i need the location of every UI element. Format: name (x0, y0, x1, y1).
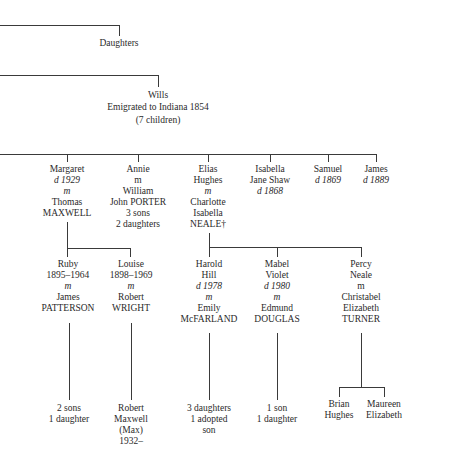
wills-name: Wills (107, 90, 209, 101)
death-date: d 1978 (181, 281, 238, 292)
person-name: Harold (181, 259, 238, 270)
person-name: Percy (341, 259, 380, 270)
line-percy-children-h (339, 387, 385, 388)
married-marker: m (110, 281, 153, 292)
line-neale-harold (209, 247, 210, 257)
married-marker: m (254, 292, 299, 303)
life-dates: 1895–1964 (42, 270, 95, 281)
children-adopted-son: son (187, 425, 231, 436)
node-elias: Elias Hughes m Charlotte Isabella NEALE† (190, 164, 226, 230)
person-name: Louise (110, 259, 153, 270)
spouse-first: Edmund (254, 303, 299, 314)
person-name: Brian (324, 399, 353, 410)
children-daughters: 2 daughters (110, 219, 166, 230)
spouse-middle: Elizabeth (341, 303, 380, 314)
node-louise: Louise 1898–1969 m Robert WRIGHT (110, 259, 153, 314)
person-name: Ruby (42, 259, 95, 270)
line-maureen (384, 387, 385, 397)
node-ruby-children: 2 sons 1 daughter (49, 403, 89, 425)
node-james: James d 1889 (363, 164, 389, 186)
line-neale-mabel (277, 247, 278, 257)
line-louise-down (131, 323, 132, 400)
line-ruby-down (69, 323, 70, 400)
line-maxwell-h (67, 248, 131, 249)
line-gen2-isabella (270, 154, 271, 162)
spouse-surname: WRIGHT (110, 303, 153, 314)
line-gen2-h (0, 154, 377, 155)
spouse-middle: Isabella (190, 208, 226, 219)
person-middle: Hill (181, 270, 238, 281)
death-date: d 1929 (43, 175, 92, 186)
person-name: Robert (114, 403, 148, 414)
children-adopted: 1 adopted (187, 414, 231, 425)
person-middle: Jane Shaw (250, 175, 290, 186)
node-harold: Harold Hill d 1978 m Emily McFARLAND (181, 259, 238, 325)
line-gen2-elias (208, 154, 209, 162)
node-ruby: Ruby 1895–1964 m James PATTERSON (42, 259, 95, 314)
spouse-surname: NEALE† (190, 219, 226, 230)
line-wills-v (158, 75, 159, 87)
line-neale-h (209, 247, 362, 248)
node-margaret: Margaret d 1929 m Thomas MAXWELL (43, 164, 92, 219)
person-middle: Neale (341, 270, 380, 281)
married-marker: m (42, 281, 95, 292)
line-neale-down (209, 233, 210, 247)
spouse-surname: TURNER (341, 314, 380, 325)
person-name: Mabel (254, 259, 299, 270)
person-surname: Maxwell (114, 414, 148, 425)
person-name: James (363, 164, 389, 175)
spouse-first: Charlotte (190, 197, 226, 208)
married-marker: m (43, 186, 92, 197)
death-date: d 1980 (254, 281, 299, 292)
wills-children: (7 children) (107, 115, 209, 126)
line-harold-down (209, 333, 210, 400)
spouse-surname: McFARLAND (181, 314, 238, 325)
spouse-surname: PATTERSON (42, 303, 95, 314)
line-maxwell-louise (130, 248, 131, 257)
line-brian (339, 387, 340, 397)
spouse-surname: MAXWELL (43, 208, 92, 219)
spouse-first: Christabel (341, 292, 380, 303)
line-maxwell-ruby (67, 248, 68, 257)
spouse-first: William (110, 186, 166, 197)
married-marker: m (110, 175, 166, 186)
line-neale-percy (361, 247, 362, 257)
married-marker: m (181, 292, 238, 303)
node-maureen: Maureen Elizabeth (366, 399, 402, 421)
node-robert-maxwell: Robert Maxwell (Max) 1932– (114, 403, 148, 447)
line-gen2-james (376, 154, 377, 162)
children-daughters: 1 daughter (49, 414, 89, 425)
daughters-label: Daughters (99, 38, 138, 49)
married-marker: m (341, 281, 380, 292)
person-name: Isabella (250, 164, 290, 175)
wills-note: Emigrated to Indiana 1854 (107, 102, 209, 113)
death-date: d 1869 (314, 175, 343, 186)
person-nickname: (Max) (114, 425, 148, 436)
line-gen2-samuel (328, 154, 329, 162)
line-maxwell-down (67, 222, 68, 248)
node-isabella: Isabella Jane Shaw d 1868 (250, 164, 290, 197)
line-gen2-margaret (67, 154, 68, 162)
person-name: Annie (110, 164, 166, 175)
line-daughters-h (0, 25, 120, 26)
person-name: Margaret (43, 164, 92, 175)
married-marker: m (190, 186, 226, 197)
children-sons: 2 sons (49, 403, 89, 414)
person-surname: Hughes (324, 410, 353, 421)
death-date: d 1868 (250, 186, 290, 197)
person-surname: Hughes (190, 175, 226, 186)
children-daughters: 3 daughters (187, 403, 231, 414)
node-mabel: Mabel Violet d 1980 m Edmund DOUGLAS (254, 259, 299, 325)
children-sons: 3 sons (110, 208, 166, 219)
line-gen2-annie (138, 154, 139, 162)
spouse-first: James (42, 292, 95, 303)
line-daughters-v (119, 25, 120, 36)
node-mabel-children: 1 son 1 daughter (257, 403, 297, 425)
children-daughters: 1 daughter (257, 414, 297, 425)
life-dates: 1898–1969 (110, 270, 153, 281)
node-samuel: Samuel d 1869 (314, 164, 343, 186)
spouse-surname: John PORTER (110, 197, 166, 208)
spouse-surname: DOUGLAS (254, 314, 299, 325)
node-harold-children: 3 daughters 1 adopted son (187, 403, 231, 436)
node-daughters: Daughters (99, 38, 138, 49)
